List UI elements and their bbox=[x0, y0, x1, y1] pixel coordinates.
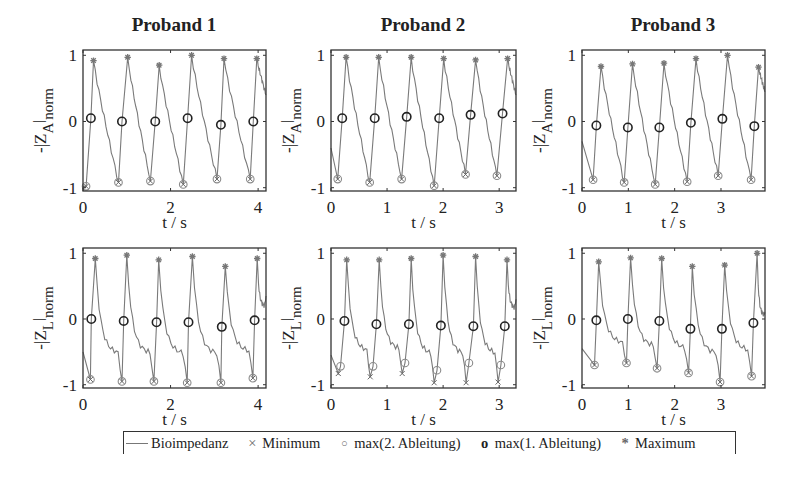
maximum-marker-icon bbox=[472, 253, 478, 259]
y-axis-label: -|ZA|norm bbox=[529, 88, 555, 153]
bioimpedance-line bbox=[582, 55, 765, 184]
bioimpedance-line bbox=[331, 255, 516, 383]
legend-label: Maximum bbox=[635, 435, 695, 452]
maximum-marker-icon bbox=[188, 52, 194, 58]
maximum-marker-icon bbox=[693, 55, 699, 61]
x-tick-label: 0 bbox=[79, 395, 88, 414]
axes-box bbox=[331, 248, 516, 388]
x-tick-label: 1 bbox=[383, 198, 392, 217]
axes-box bbox=[83, 248, 266, 388]
maximum-marker-icon bbox=[754, 250, 760, 256]
y-tick-label: -1 bbox=[562, 376, 576, 395]
y-tick-label: 0 bbox=[568, 112, 577, 131]
x-tick-label: 3 bbox=[495, 198, 504, 217]
x-tick-label: 4 bbox=[254, 395, 263, 414]
maximum-marker-icon bbox=[343, 54, 349, 60]
legend-item-bioimpedanz: Bioimpedanz bbox=[126, 435, 228, 452]
legend: Bioimpedanz × Minimum ○ max(2. Ableitung… bbox=[123, 431, 736, 454]
y-axis-label: -|ZA|norm bbox=[30, 88, 56, 153]
x-tick-label: 0 bbox=[578, 198, 587, 217]
y-tick-label: -1 bbox=[562, 179, 576, 198]
y-tick-label: -1 bbox=[311, 179, 325, 198]
maximum-marker-icon bbox=[221, 55, 227, 61]
x-tick-label: 0 bbox=[327, 198, 336, 217]
x-tick-label: 2 bbox=[439, 395, 448, 414]
axes-box bbox=[331, 50, 516, 191]
maximum-marker-icon bbox=[254, 55, 260, 61]
maximum-marker-icon bbox=[689, 263, 695, 269]
legend-item-max-2-ableitung: ○ max(2. Ableitung) bbox=[334, 435, 460, 452]
maximum-marker-icon bbox=[376, 257, 382, 263]
maximum-marker-icon bbox=[344, 257, 350, 263]
y-tick-label: 1 bbox=[69, 46, 78, 65]
maximum-marker-icon bbox=[440, 252, 446, 258]
x-axis-label: t / s bbox=[661, 213, 686, 232]
x-axis-label: t / s bbox=[661, 410, 686, 429]
maximum-marker-icon bbox=[254, 255, 260, 261]
maximum-marker-icon bbox=[189, 253, 195, 259]
subplot-2: -1010123t / s-|ZA|norm bbox=[278, 46, 516, 232]
maximum-marker-icon bbox=[441, 55, 447, 61]
legend-label: max(2. Ableitung) bbox=[354, 435, 460, 452]
x-tick-label: 1 bbox=[624, 395, 633, 414]
maximum-marker-icon bbox=[627, 255, 633, 261]
figure: Proband 1 Proband 2 Proband 3 -101024t /… bbox=[0, 0, 792, 480]
x-tick-label: 1 bbox=[624, 198, 633, 217]
asterisk-marker-icon: * bbox=[615, 435, 635, 452]
maximum-marker-icon bbox=[504, 257, 510, 263]
x-tick-label: 3 bbox=[717, 198, 726, 217]
maximum-marker-icon bbox=[125, 54, 131, 60]
y-tick-label: -1 bbox=[63, 376, 77, 395]
x-tick-label: 4 bbox=[254, 198, 263, 217]
maximum-marker-icon bbox=[156, 257, 162, 263]
x-tick-label: 3 bbox=[717, 395, 726, 414]
maximum-marker-icon bbox=[598, 63, 604, 69]
maximum-marker-icon bbox=[659, 255, 665, 261]
y-tick-label: 0 bbox=[69, 112, 78, 131]
y-tick-label: 0 bbox=[69, 310, 78, 329]
bioimpedance-line bbox=[331, 57, 516, 185]
maximum-marker-icon bbox=[661, 60, 667, 66]
y-tick-label: 0 bbox=[568, 310, 577, 329]
x-tick-label: 0 bbox=[79, 198, 88, 217]
light-circle-marker-icon: ○ bbox=[334, 437, 354, 449]
cross-marker-icon: × bbox=[242, 435, 262, 452]
legend-item-maximum: * Maximum bbox=[615, 435, 695, 452]
line-swatch-icon bbox=[126, 443, 148, 444]
subplot-5: -1010123t / s-|ZL|norm bbox=[278, 244, 516, 429]
maximum-marker-icon bbox=[472, 57, 478, 63]
y-tick-label: 0 bbox=[317, 112, 326, 131]
maximum-marker-icon bbox=[376, 54, 382, 60]
y-tick-label: 1 bbox=[317, 244, 326, 263]
x-tick-label: 0 bbox=[578, 395, 587, 414]
x-axis-label: t / s bbox=[162, 410, 187, 429]
y-tick-label: 1 bbox=[317, 46, 326, 65]
axes-box bbox=[582, 50, 765, 191]
legend-item-minimum: × Minimum bbox=[242, 435, 320, 452]
maximum-marker-icon bbox=[222, 263, 228, 269]
subplot-3: -1010123t / s-|ZA|norm bbox=[529, 46, 765, 232]
maximum-marker-icon bbox=[156, 62, 162, 68]
x-tick-label: 0 bbox=[327, 395, 336, 414]
x-tick-label: 2 bbox=[439, 198, 448, 217]
legend-label: Bioimpedanz bbox=[151, 435, 228, 452]
maximum-marker-icon bbox=[408, 54, 414, 60]
maximum-marker-icon bbox=[92, 255, 98, 261]
subplot-grid: -101024t / s-|ZA|norm-1010123t / s-|ZA|n… bbox=[0, 0, 792, 480]
y-tick-label: 1 bbox=[568, 46, 577, 65]
y-tick-label: -1 bbox=[63, 179, 77, 198]
maximum-marker-icon bbox=[504, 55, 510, 61]
maximum-marker-icon bbox=[722, 262, 728, 268]
dark-circle-marker-icon: o bbox=[475, 435, 495, 452]
x-axis-label: t / s bbox=[411, 213, 436, 232]
bioimpedance-line bbox=[83, 55, 266, 186]
y-axis-label: -|ZL|norm bbox=[30, 286, 56, 350]
y-axis-label: -|ZL|norm bbox=[278, 286, 304, 350]
subplot-1: -101024t / s-|ZA|norm bbox=[30, 46, 266, 232]
legend-item-max-1-ableitung: o max(1. Ableitung) bbox=[475, 435, 601, 452]
x-tick-label: 3 bbox=[495, 395, 504, 414]
y-tick-label: 0 bbox=[317, 310, 326, 329]
y-axis-label: -|ZA|norm bbox=[278, 88, 304, 153]
legend-label: Minimum bbox=[262, 435, 320, 452]
subplot-4: -101024t / s-|ZL|norm bbox=[30, 244, 266, 429]
